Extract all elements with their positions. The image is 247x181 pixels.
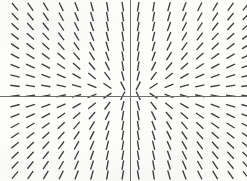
slope-segment	[183, 12, 187, 21]
slope-segment	[211, 123, 219, 129]
slope-segment	[242, 33, 247, 39]
slope-segment	[152, 32, 154, 41]
slope-segment	[12, 3, 18, 10]
slope-segment	[42, 123, 50, 129]
slope-segment	[167, 131, 171, 140]
slope-segment	[167, 32, 171, 41]
slope-segment	[59, 161, 64, 169]
slope-segment	[105, 111, 109, 120]
slope-segment	[180, 85, 189, 88]
slope-segment	[197, 161, 202, 169]
slope-segment	[122, 160, 124, 169]
slope-segment	[73, 122, 79, 129]
slope-segment	[212, 132, 219, 138]
slope-segment	[242, 133, 247, 138]
slope-segment	[242, 142, 247, 148]
slope-segment	[212, 151, 218, 158]
slope-segment	[182, 132, 187, 140]
slope-segment	[153, 12, 155, 21]
slope-segment	[107, 2, 109, 11]
slope-segment	[152, 121, 155, 130]
slope-segment	[197, 151, 202, 159]
slope-segment	[106, 121, 109, 130]
slope-segment	[211, 64, 219, 69]
slope-segment	[243, 3, 247, 10]
slope-segment	[151, 111, 155, 120]
slope-segment	[72, 85, 81, 88]
slope-segment	[11, 64, 20, 68]
slope-segment	[181, 63, 188, 69]
slope-segment	[89, 52, 94, 60]
slope-segment	[90, 151, 93, 160]
slope-segment	[11, 133, 19, 138]
slope-segment	[122, 141, 124, 150]
slope-segment	[228, 171, 234, 179]
slope-segment	[183, 2, 186, 11]
slope-segment	[73, 63, 80, 69]
slope-segments-group	[10, 2, 247, 180]
slope-segment	[195, 85, 204, 87]
slope-segment	[59, 23, 64, 31]
slope-segment	[26, 64, 35, 68]
slope-segment	[74, 42, 79, 50]
slope-segment	[211, 53, 219, 59]
slope-segment	[136, 82, 140, 91]
slope-segment	[212, 142, 218, 149]
slope-segment	[26, 104, 35, 107]
slope-segment	[122, 32, 124, 41]
slope-segment	[12, 162, 19, 169]
slope-segment	[197, 142, 203, 150]
slope-segment	[90, 22, 93, 31]
slope-segment	[165, 103, 172, 109]
slope-segment	[11, 123, 19, 127]
slope-segment	[227, 43, 235, 49]
slope-segment	[10, 85, 19, 86]
slope-segment	[74, 132, 79, 140]
slope-segment	[41, 104, 50, 107]
slope-field-figure	[0, 0, 247, 181]
slope-segment	[195, 104, 204, 108]
slope-segment	[242, 123, 247, 127]
slope-segment	[58, 142, 64, 150]
slope-segment	[168, 12, 171, 21]
slope-segment	[151, 62, 155, 71]
slope-segment	[228, 13, 234, 20]
slope-segment	[167, 141, 171, 150]
slope-segment	[227, 123, 235, 128]
slope-segment	[182, 42, 187, 50]
slope-segment	[226, 114, 235, 118]
slope-segment	[91, 2, 94, 11]
slope-segment	[27, 142, 34, 148]
slope-segment	[165, 73, 172, 79]
slope-segment	[152, 141, 154, 150]
slope-segment	[211, 74, 220, 77]
slope-segment	[243, 13, 247, 20]
slope-segment	[167, 22, 170, 31]
slope-segment	[137, 121, 139, 130]
slope-segment	[26, 75, 35, 78]
slope-segment	[91, 161, 94, 170]
slope-segment	[57, 74, 66, 78]
slope-segment	[181, 122, 187, 129]
slope-segment	[122, 151, 124, 160]
slope-segment	[107, 160, 109, 169]
slope-segment	[105, 102, 111, 110]
slope-segment	[227, 33, 234, 39]
slope-segment	[26, 123, 34, 128]
slope-segment	[90, 131, 94, 140]
slope-segment	[10, 104, 19, 106]
slope-segment	[195, 74, 204, 78]
slope-segment	[73, 53, 79, 60]
slope-segment	[122, 121, 124, 130]
slope-segment	[166, 52, 171, 60]
slope-segment	[90, 42, 94, 51]
slope-segment	[12, 171, 18, 178]
slope-segment	[226, 64, 235, 68]
slope-field-plot	[0, 0, 247, 181]
slope-segment	[59, 151, 64, 159]
slope-segment	[43, 161, 48, 169]
slope-segment	[198, 171, 202, 180]
slope-segment	[74, 141, 79, 149]
slope-segment	[227, 23, 233, 30]
slope-segment	[27, 43, 35, 49]
